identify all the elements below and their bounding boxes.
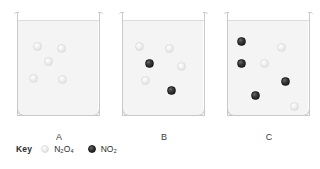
legend-entry-no2: NO₂ <box>88 144 117 154</box>
molecule-n2o4 <box>277 43 286 52</box>
molecule-n2o4 <box>29 74 38 83</box>
molecule-n2o4 <box>290 102 299 111</box>
beaker-c <box>224 10 314 120</box>
legend-title: Key <box>16 144 32 154</box>
beaker-b-wall-right <box>204 12 205 116</box>
molecule-n2o4 <box>57 44 66 53</box>
beaker-a-interior <box>17 20 98 116</box>
equilibrium-figure: A B <box>0 0 320 169</box>
beaker-c-wall-left <box>227 12 228 116</box>
molecule-n2o4 <box>165 44 174 53</box>
beaker-b-fill-line <box>122 20 205 21</box>
legend-label-n2o4: N₂O₄ <box>54 144 74 154</box>
beaker-b-wall-left <box>122 12 123 116</box>
beaker-c-wall-right <box>309 12 310 116</box>
beaker-b-floor <box>122 115 205 116</box>
beaker-a-wall-left <box>17 12 18 116</box>
beaker-b <box>119 10 209 120</box>
molecule-no2 <box>167 86 176 95</box>
molecule-n2o4 <box>177 62 186 71</box>
light-circle-icon <box>41 145 49 153</box>
molecule-n2o4 <box>141 76 150 85</box>
molecule-n2o4 <box>33 42 42 51</box>
molecule-n2o4 <box>135 42 144 51</box>
legend-label-no2: NO₂ <box>101 144 117 154</box>
legend-entry-n2o4: N₂O₄ <box>41 144 74 154</box>
beaker-c-floor <box>227 115 310 116</box>
beaker-a-floor <box>17 115 100 116</box>
beaker-a-fill-line <box>17 20 100 21</box>
molecule-n2o4 <box>58 75 67 84</box>
container-a-label: A <box>14 132 104 142</box>
dark-circle-icon <box>88 145 96 153</box>
molecule-no2 <box>281 77 290 86</box>
molecule-n2o4 <box>44 57 53 66</box>
container-b-label: B <box>119 132 209 142</box>
molecule-no2 <box>251 91 260 100</box>
container-c-label: C <box>224 132 314 142</box>
beaker-c-fill-line <box>227 20 310 21</box>
molecule-n2o4 <box>260 59 269 68</box>
beaker-a-wall-right <box>99 12 100 116</box>
beaker-b-interior <box>122 20 203 116</box>
molecule-no2 <box>237 37 246 46</box>
legend: Key N₂O₄ NO₂ <box>16 142 131 156</box>
beaker-a <box>14 10 104 120</box>
molecule-no2 <box>145 59 154 68</box>
molecule-no2 <box>237 59 246 68</box>
